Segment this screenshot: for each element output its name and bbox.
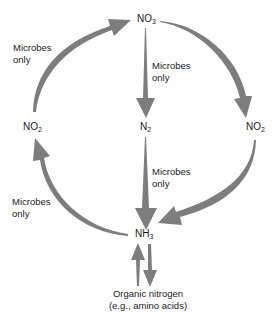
label-line: only [152,72,191,84]
node-nh3-formula: NH [135,228,149,239]
node-no2-left: NO2 [23,122,42,132]
node-no2-right-subscript: 2 [261,126,265,133]
node-no2-right: NO2 [246,122,265,132]
node-no3: NO3 [137,14,156,24]
node-no3-subscript: 3 [152,18,156,25]
node-organic-nitrogen: Organic nitrogen (e.g., amino acids) [93,288,203,312]
label-microbes-only-bottom-left: Microbes only [12,196,51,220]
label-line: Microbes [13,42,52,54]
arrow-nh3-to-no2-left [33,138,128,236]
node-n2-subscript: 2 [147,126,151,133]
node-n2: N2 [140,122,151,132]
label-line: Microbes [12,196,51,208]
label-line: Microbes [152,166,191,178]
node-no3-formula: NO [137,13,152,24]
label-microbes-only-top-left: Microbes only [13,42,52,66]
organic-nitrogen-example: (e.g., amino acids) [93,300,203,312]
node-no2-left-formula: NO [23,121,38,132]
label-line: Microbes [152,60,191,72]
node-nh3-subscript: 3 [149,233,153,240]
organic-nitrogen-label: Organic nitrogen [93,288,203,300]
node-no2-left-subscript: 2 [38,126,42,133]
nitrogen-cycle-diagram: NO3 N2 NO2 NO2 NH3 Organic nitrogen (e.g… [0,0,275,318]
label-line: only [12,208,51,220]
label-line: only [152,178,191,190]
arrow-nh3-to-organic [143,244,157,287]
node-no2-right-formula: NO [246,121,261,132]
label-microbes-only-center-bottom: Microbes only [152,166,191,190]
arrow-organic-to-nh3 [131,243,145,286]
label-line: only [13,54,52,66]
label-microbes-only-center-top: Microbes only [152,60,191,84]
node-nh3: NH3 [135,229,153,239]
